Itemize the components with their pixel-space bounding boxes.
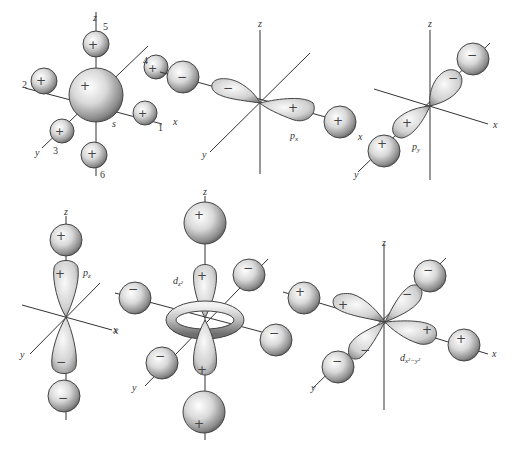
svg-text:−: −	[467, 48, 477, 62]
svg-text:x: x	[112, 324, 118, 335]
svg-text:+: +	[55, 267, 65, 281]
svg-text:y: y	[353, 169, 359, 180]
svg-text:+: +	[295, 285, 305, 299]
svg-text:−: −	[56, 355, 66, 369]
orbital-label-dz2: dz²	[173, 275, 184, 288]
svg-text:y: y	[310, 382, 316, 393]
svg-text:+: +	[402, 116, 412, 130]
orbital-label-dx2y2: dx²−y²	[400, 352, 421, 365]
panel-s-orbital: + s + + + + + + 5 4 2 1 3 6 z x y	[22, 12, 178, 180]
svg-text:−: −	[243, 261, 253, 275]
svg-text:+: +	[288, 101, 298, 115]
svg-text:y: y	[201, 149, 207, 160]
svg-text:2: 2	[22, 79, 27, 90]
svg-text:1: 1	[158, 122, 163, 133]
svg-text:−: −	[223, 81, 233, 95]
svg-text:+: +	[87, 147, 97, 161]
svg-text:+: +	[377, 137, 387, 151]
svg-text:z: z	[381, 237, 386, 248]
svg-text:−: −	[332, 354, 342, 368]
central-s-sphere	[69, 68, 123, 122]
svg-text:+: +	[456, 332, 466, 346]
svg-text:+: +	[422, 323, 432, 337]
svg-text:−: −	[177, 70, 187, 84]
svg-text:6: 6	[100, 169, 105, 180]
svg-text:+: +	[148, 62, 157, 75]
svg-text:+: +	[55, 125, 64, 138]
svg-text:x: x	[172, 116, 178, 127]
sign-central: +	[80, 79, 90, 93]
panel-py-orbital: − + − + py z x y	[353, 18, 498, 180]
panel-pz-orbital: + − + − pz z x y	[19, 206, 119, 420]
svg-text:+: +	[333, 114, 343, 128]
svg-text:y: y	[34, 147, 40, 158]
px-lobe-negative	[212, 79, 260, 103]
svg-text:−: −	[402, 287, 412, 301]
svg-text:+: +	[88, 38, 98, 52]
svg-text:x: x	[492, 119, 498, 130]
svg-text:−: −	[423, 263, 433, 277]
svg-text:+: +	[197, 269, 207, 283]
svg-text:−: −	[269, 326, 279, 340]
svg-text:y: y	[19, 349, 25, 360]
svg-text:z: z	[202, 186, 207, 197]
panel-dx2y2-orbital: + − + − + − + − dx²−y² z x y	[283, 237, 497, 410]
svg-text:+: +	[56, 229, 66, 243]
svg-text:z: z	[92, 12, 97, 23]
orbital-label-s: s	[112, 118, 116, 129]
panel-dz2-orbital: + + + − − − − + dz² z x y	[112, 186, 292, 440]
svg-text:−: −	[128, 282, 138, 296]
svg-text:z: z	[257, 18, 262, 29]
svg-text:x: x	[357, 131, 363, 142]
orbital-label-py: py	[411, 141, 421, 154]
orbital-figure: + s + + + + + + 5 4 2 1 3 6 z x y − + −	[0, 0, 519, 453]
svg-text:+: +	[36, 74, 46, 88]
svg-text:−: −	[360, 343, 370, 357]
svg-text:+: +	[197, 363, 207, 377]
orbital-label-px: px	[289, 130, 299, 143]
svg-text:−: −	[58, 391, 68, 405]
svg-text:y: y	[131, 382, 137, 393]
svg-text:+: +	[338, 298, 348, 312]
svg-text:−: −	[448, 71, 458, 85]
orbital-label-pz: pz	[82, 267, 91, 280]
dz2-ligand-top	[184, 202, 226, 244]
svg-text:z: z	[63, 206, 68, 217]
svg-text:3: 3	[53, 145, 58, 156]
svg-text:x: x	[491, 348, 497, 359]
svg-text:4: 4	[143, 55, 148, 66]
svg-text:+: +	[138, 107, 147, 120]
panel-px-orbital: − + − + px z x y	[160, 18, 363, 174]
svg-text:+: +	[194, 208, 204, 222]
svg-text:z: z	[427, 18, 432, 29]
svg-text:+: +	[194, 417, 204, 431]
svg-text:5: 5	[103, 21, 108, 32]
svg-text:−: −	[155, 349, 165, 363]
